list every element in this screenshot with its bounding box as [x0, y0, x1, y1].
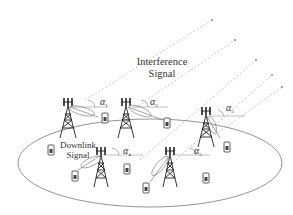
- alpha-index: 3: [231, 109, 234, 114]
- interference-ray-sources: [211, 19, 283, 88]
- phone-icon: [102, 113, 108, 123]
- phone-icon: [224, 142, 230, 152]
- phone-icon: [124, 164, 130, 174]
- angle-alpha-1: α1: [100, 97, 108, 108]
- downlink-line1: Downlink: [56, 141, 100, 150]
- base-station-5-icon: [163, 147, 177, 187]
- phone-icon: [164, 118, 170, 128]
- phone-icon: [203, 173, 209, 183]
- base-station-3-icon: [198, 107, 214, 147]
- base-station-1-icon: [60, 98, 76, 138]
- phone-icon: [72, 171, 78, 181]
- interference-signal-label: Interference Signal: [130, 57, 194, 79]
- angle-alpha-3: α3: [226, 103, 234, 114]
- angle-alpha-2: α2: [150, 97, 158, 108]
- base-station-2-icon: [118, 98, 134, 138]
- alpha-index: 2: [155, 103, 158, 108]
- angle-alpha-5: α5: [194, 146, 202, 157]
- phone-icon: [143, 183, 149, 193]
- coverage-area-ellipse: [18, 119, 282, 207]
- alpha-index: 5: [199, 152, 202, 157]
- phone-icon: [48, 145, 54, 155]
- diagram-graphic: [0, 0, 293, 215]
- downlink-signal-label: Downlink Signal: [56, 141, 100, 160]
- alpha-index: 4: [128, 152, 131, 157]
- downlink-line2: Signal: [56, 151, 100, 160]
- interference-title-line1: Interference: [130, 57, 194, 68]
- angle-alpha-4: α4: [123, 146, 131, 157]
- alpha-index: 1: [105, 103, 108, 108]
- diagram-canvas: Interference Signal Downlink Signal α1 α…: [0, 0, 293, 215]
- interference-rays: [85, 20, 282, 165]
- interference-title-line2: Signal: [130, 69, 194, 80]
